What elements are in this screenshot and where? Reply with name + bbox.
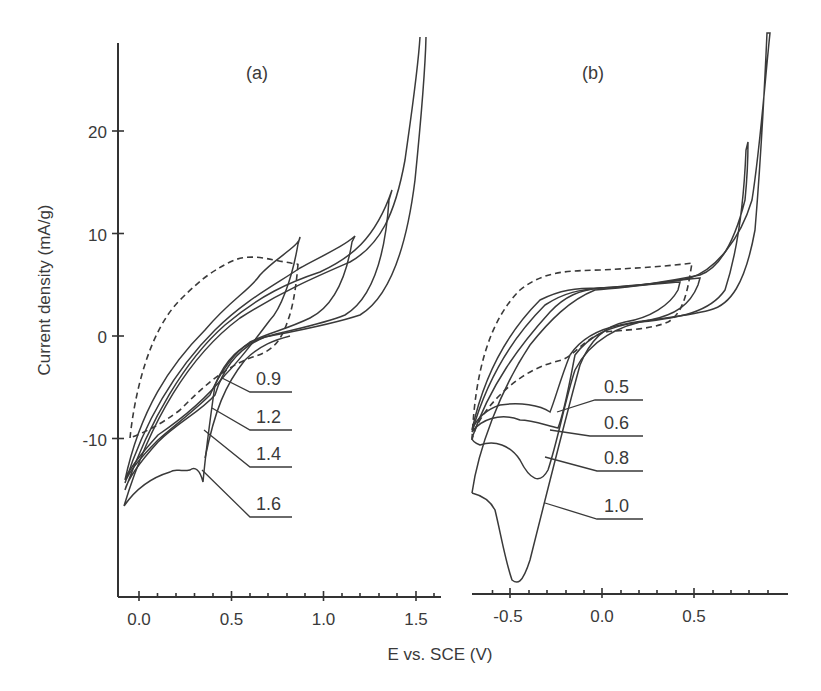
y-tick-label: 10 (88, 226, 107, 245)
curve-label: 0.6 (604, 413, 629, 433)
x-tick-label: -0.5 (493, 607, 522, 626)
curve-label: 0.9 (256, 369, 281, 389)
curve-a-cathodic-branch (205, 336, 290, 458)
cyclic-voltammetry-figure: 20 10 0 -10 Current density (mA/g) (0, 0, 821, 691)
curve-a-1.6 (124, 37, 426, 506)
curve-label: 1.2 (256, 407, 281, 427)
y-tick-label: 20 (88, 123, 107, 142)
curve-label: 0.8 (604, 448, 629, 468)
panel-b-curve-labels: 0.5 0.6 0.8 1.0 (545, 377, 643, 519)
y-axis: 20 10 0 -10 Current density (mA/g) (35, 43, 124, 597)
x-tick-label: 0.0 (590, 607, 614, 626)
panel-b-label: (b) (582, 63, 604, 83)
curve-b-dashed (472, 263, 692, 440)
curve-label: 1.4 (256, 444, 281, 464)
curve-b-0.5 (472, 33, 770, 430)
x-tick-label: 1.5 (404, 610, 428, 629)
x-tick-label: 0.5 (682, 607, 706, 626)
x-tick-label: 0.0 (127, 610, 151, 629)
y-tick-label: -10 (82, 431, 107, 450)
x-tick-label: 0.5 (220, 610, 244, 629)
x-tick-label: 1.0 (312, 610, 336, 629)
x-axis-title: E vs. SCE (V) (388, 645, 493, 664)
curve-label: 0.5 (604, 377, 629, 397)
curve-b-0.8 (472, 278, 700, 479)
panel-a-label: (a) (246, 63, 268, 83)
y-tick-label: 0 (98, 328, 107, 347)
panel-a-curves (124, 37, 426, 506)
panel-b-x-axis: -0.5 0.0 0.5 (472, 588, 788, 626)
curve-label: 1.0 (604, 496, 629, 516)
y-axis-title: Current density (mA/g) (35, 205, 54, 376)
curve-a-1.2 (125, 236, 355, 483)
panel-a-x-axis: 0.0 0.5 1.0 1.5 (118, 591, 441, 629)
curve-label: 1.6 (256, 494, 281, 514)
